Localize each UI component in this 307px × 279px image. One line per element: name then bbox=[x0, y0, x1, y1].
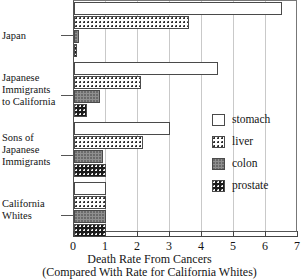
gridline-2 bbox=[137, 1, 138, 231]
bar-whites-liver bbox=[74, 196, 106, 209]
legend-swatch-prostate-icon bbox=[212, 180, 225, 192]
bar-sons-colon bbox=[74, 150, 103, 163]
bar-japan-liver bbox=[74, 16, 189, 29]
bar-immigrants-colon bbox=[74, 90, 100, 103]
x-axis-subtitle: (Compared With Rate for California White… bbox=[0, 266, 299, 279]
bar-immigrants-stomach bbox=[74, 62, 218, 75]
category-label-immigrants-line1: Japanese bbox=[2, 72, 68, 84]
x-ticklabel-5: 5 bbox=[223, 239, 243, 254]
legend-label-colon: colon bbox=[232, 156, 258, 171]
x-tick-4 bbox=[201, 231, 202, 237]
bar-immigrants-liver bbox=[74, 76, 141, 89]
category-label-japan-line1: Japan bbox=[2, 30, 68, 42]
bar-sons-stomach bbox=[74, 122, 170, 135]
category-label-whites-line2: Whites bbox=[2, 210, 68, 222]
x-axis-line bbox=[73, 236, 297, 237]
bar-sons-liver bbox=[74, 136, 143, 149]
x-ticklabel-7: 7 bbox=[287, 239, 307, 254]
legend-label-liver: liver bbox=[232, 134, 253, 149]
legend-swatch-liver-icon bbox=[212, 136, 225, 148]
category-label-sons: Sons of Japanese Immigrants bbox=[2, 132, 68, 168]
legend-swatch-stomach-icon bbox=[212, 114, 225, 126]
category-label-immigrants: Japanese Immigrants to California bbox=[2, 72, 68, 108]
category-label-sons-line3: Immigrants bbox=[2, 156, 68, 168]
x-tick-3 bbox=[169, 231, 170, 237]
bar-japan-stomach bbox=[74, 2, 282, 15]
category-label-sons-line1: Sons of bbox=[2, 132, 68, 144]
x-tick-5 bbox=[233, 231, 234, 237]
bar-whites-stomach bbox=[74, 182, 106, 195]
x-ticklabel-6: 6 bbox=[255, 239, 275, 254]
category-label-immigrants-line2: Immigrants bbox=[2, 84, 68, 96]
bar-immigrants-prostate bbox=[74, 104, 87, 117]
category-label-whites: California Whites bbox=[2, 198, 68, 222]
x-tick-7 bbox=[297, 231, 298, 237]
bar-japan-colon bbox=[74, 30, 79, 43]
category-label-immigrants-line3: to California bbox=[2, 96, 68, 108]
legend-swatch-colon-icon bbox=[212, 158, 225, 170]
legend-label-stomach: stomach bbox=[232, 112, 270, 127]
category-label-whites-line1: California bbox=[2, 198, 68, 210]
legend-label-prostate: prostate bbox=[232, 178, 268, 193]
x-tick-1 bbox=[105, 231, 106, 237]
gridline-3 bbox=[169, 1, 170, 231]
bar-whites-colon bbox=[74, 210, 106, 223]
x-tick-2 bbox=[137, 231, 138, 237]
category-label-japan: Japan bbox=[2, 30, 68, 42]
x-tick-0 bbox=[73, 231, 74, 237]
bar-japan-prostate bbox=[74, 44, 77, 57]
x-ticklabel-0: 0 bbox=[63, 239, 83, 254]
gridline-4 bbox=[201, 1, 202, 231]
category-label-sons-line2: Japanese bbox=[2, 144, 68, 156]
x-tick-6 bbox=[265, 231, 266, 237]
bar-sons-prostate bbox=[74, 164, 106, 177]
